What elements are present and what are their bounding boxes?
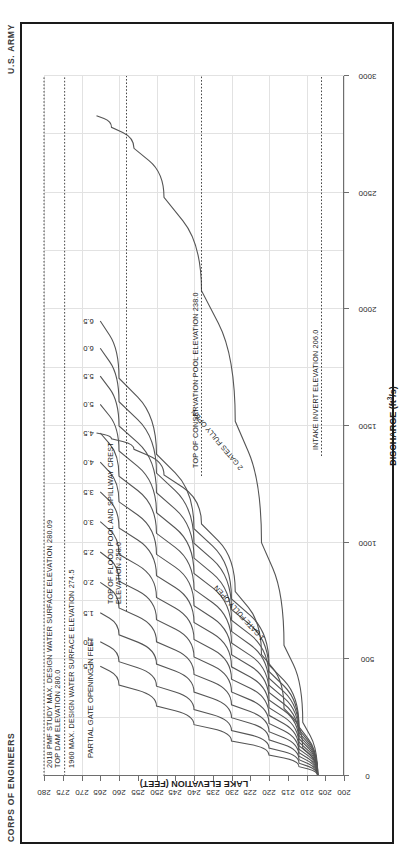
y-axis-tick: [138, 776, 139, 781]
annotation-flood-pool: TOP OF FLOOD POOL AND SPILLWAY CRESTELEV…: [107, 442, 124, 604]
corps-of-engineers-label: CORPS OF ENGINEERS: [6, 733, 16, 842]
y-axis-tick: [269, 776, 270, 781]
y-axis-tick-label: 205: [315, 788, 335, 797]
rating-curve-plot: 0500100015002000250030002002052102152202…: [44, 76, 344, 776]
y-axis-tick-label: 270: [72, 788, 92, 797]
gate-opening-label-5-5: 5.5: [83, 372, 94, 381]
screenshot-page: CORPS OF ENGINEERS U.S. ARMY 05001000150…: [0, 0, 414, 866]
x-axis-tick: [344, 75, 349, 76]
y-axis-tick: [119, 776, 120, 781]
x-axis-tick: [344, 658, 349, 659]
x-axis-tick-label: 1000: [359, 538, 377, 547]
y-axis-tick-label: 220: [259, 788, 279, 797]
y-axis-tick: [63, 776, 64, 781]
x-axis-tick: [344, 542, 349, 543]
y-axis-tick-label: 255: [128, 788, 148, 797]
x-axis-tick: [344, 192, 349, 193]
y-axis-tick-label: 215: [278, 788, 298, 797]
rating-curve-line: [100, 613, 318, 776]
y-axis-tick-label: 245: [165, 788, 185, 797]
rating-curve-line: [100, 321, 318, 776]
partial-gate-opening-title: PARTIAL GATE OPENING IN FEET: [86, 637, 95, 758]
x-axis-tick-label: 0: [365, 772, 369, 781]
gate-opening-label-5-0: 5.0: [83, 400, 94, 409]
gate-opening-label-2-5: 2.5: [83, 548, 94, 557]
x-axis-tick: [344, 425, 349, 426]
y-axis-tick-label: 210: [297, 788, 317, 797]
y-axis-tick-label: 235: [203, 788, 223, 797]
x-axis-tick: [344, 308, 349, 309]
y-axis-tick-label: 200: [334, 788, 354, 797]
y-axis-tick-label: 260: [109, 788, 129, 797]
y-axis-tick-label: 250: [147, 788, 167, 797]
y-axis-tick: [307, 776, 308, 781]
y-axis-tick: [44, 776, 45, 781]
y-axis-tick: [100, 776, 101, 781]
x-axis-title: DISCHARGE (ft3/s): [386, 386, 398, 466]
x-axis-line: [343, 76, 344, 776]
x-axis-tick-label: 3000: [359, 72, 377, 81]
y-axis-tick-label: 275: [53, 788, 73, 797]
gate-opening-label-0-5: 0.5: [83, 662, 94, 671]
gate-opening-label-4-0: 4.0: [83, 458, 94, 467]
gate-opening-label-1-0: 1.0: [83, 637, 94, 646]
us-army-label: U.S. ARMY: [6, 24, 16, 74]
annotation-intake-invert: INTAKE INVERT ELEVATION 206.0: [311, 329, 320, 450]
annotation-pmf-dam-crest: 2018 PMF STUDY MAX. DESIGN WATER SURFACE…: [46, 520, 63, 768]
y-axis-tick: [325, 776, 326, 781]
y-axis-tick: [250, 776, 251, 781]
rotated-drawing-canvas: CORPS OF ENGINEERS U.S. ARMY 05001000150…: [0, 0, 414, 866]
gate-opening-label-4-5: 4.5: [83, 429, 94, 438]
gate-opening-label-1-5: 1.5: [83, 608, 94, 617]
gridline-horizontal: [344, 76, 345, 776]
y-axis-line: [44, 775, 344, 776]
rating-curve-line: [100, 582, 318, 776]
rating-curve-line: [100, 666, 318, 776]
gate-opening-label-2-0: 2.0: [83, 578, 94, 587]
y-axis-tick: [344, 776, 345, 781]
x-axis-tick-label: 500: [361, 655, 374, 664]
rating-curve-line: [100, 404, 318, 776]
y-axis-tick-label: 265: [90, 788, 110, 797]
y-axis-tick-label: 280: [34, 788, 54, 797]
gate-opening-label-6-0: 6.0: [83, 344, 94, 353]
y-axis-tick-label: 225: [240, 788, 260, 797]
gate-opening-label-3-5: 3.5: [83, 487, 94, 496]
y-axis-tick-label: 230: [222, 788, 242, 797]
gate-opening-label-6-5: 6.5: [83, 317, 94, 326]
y-axis-tick: [82, 776, 83, 781]
y-axis-tick: [288, 776, 289, 781]
gate-opening-label-3-0: 3.0: [83, 517, 94, 526]
rating-curve-line: [100, 492, 318, 776]
chart-sheet: CORPS OF ENGINEERS U.S. ARMY 05001000150…: [0, 0, 414, 866]
x-axis-tick-label: 2000: [359, 305, 377, 314]
x-axis-tick-label: 2500: [359, 188, 377, 197]
x-axis-tick-label: 1500: [359, 422, 377, 431]
rating-curve-line: [100, 462, 318, 776]
annotation-conservation-pool: TOP OF CONSERVATION POOL ELEVATION 238.0: [191, 292, 200, 468]
rating-curve-line: [97, 116, 318, 776]
annotation-design-wse-1960: 1960 MAX. DESIGN WATER SURFACE ELEVATION…: [67, 569, 76, 768]
y-axis-title: LAKE ELEVATION (FEET): [140, 779, 249, 789]
y-axis-tick-label: 240: [184, 788, 204, 797]
